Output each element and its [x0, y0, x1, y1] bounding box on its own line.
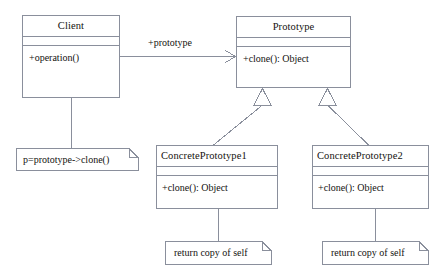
- generalization-concreteprototype2[interactable]: [319, 89, 369, 146]
- generalization-concreteprototype1[interactable]: [214, 89, 272, 146]
- association-label-prototype: +prototype: [148, 38, 192, 48]
- note-text-concreteprototype1: return copy of self: [174, 248, 248, 258]
- class-title-concreteprototype1: ConcretePrototype1: [161, 151, 247, 162]
- note-text-client: p=prototype->clone(): [23, 155, 109, 165]
- association-client-prototype[interactable]: [120, 51, 236, 63]
- class-title-client: Client: [22, 21, 120, 32]
- class-operation-client-0: +operation(): [29, 53, 79, 63]
- diagram-geometry: [0, 0, 445, 278]
- uml-class-diagram: Client +operation() Prototype +clone(): …: [0, 0, 445, 278]
- note-text-concreteprototype2: return copy of self: [331, 248, 405, 258]
- class-title-concreteprototype2: ConcretePrototype2: [317, 151, 403, 162]
- class-title-prototype: Prototype: [236, 22, 351, 33]
- class-operation-prototype-0: +clone(): Object: [243, 54, 309, 64]
- class-operation-concreteprototype1-0: +clone(): Object: [162, 183, 228, 193]
- class-operation-concreteprototype2-0: +clone(): Object: [318, 183, 384, 193]
